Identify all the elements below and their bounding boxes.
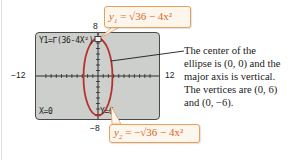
- description-line: and (0, −6).: [184, 96, 302, 109]
- callout-y1-text: = √36 − 4x²: [117, 10, 172, 22]
- ymax-label: 8: [93, 21, 98, 31]
- page-edge-divider: [1, 0, 2, 160]
- xmax-label: 12: [165, 70, 174, 80]
- description-line: ellipse is (0, 0) and the: [184, 57, 302, 70]
- description-line: The center of the: [184, 44, 302, 57]
- graphing-calculator-screen: Y1=Γ(36-4X²) X=0 Y=6: [35, 32, 160, 120]
- xmin-label: −12: [11, 70, 25, 80]
- description-line: major axis is vertical.: [184, 70, 302, 83]
- cursor-x-value: X=0: [39, 108, 53, 116]
- trace-cursor: [95, 37, 101, 42]
- callout-y2-equation: y2 = −√36 − 4x²: [109, 124, 200, 143]
- ellipse-description: The center of the ellipse is (0, 0) and …: [184, 44, 302, 109]
- ellipse-plot: [36, 33, 160, 120]
- cursor-y-value: Y=6: [100, 108, 114, 116]
- description-line: The vertices are (0, 6): [184, 83, 302, 96]
- callout-y2-text: = −√36 − 4x²: [122, 126, 183, 138]
- callout-y1-equation: y1 = √36 − 4x²: [104, 6, 191, 28]
- equation-label: Y1=Γ(36-4X²): [39, 37, 93, 45]
- ymin-label: −8: [90, 123, 100, 133]
